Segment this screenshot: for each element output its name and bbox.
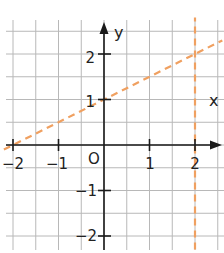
- x-tick-label: −2: [2, 155, 24, 173]
- x-tick-label: 1: [145, 155, 155, 173]
- dashed-line: [4, 40, 222, 149]
- x-tick-labels: −2 −1 1 2: [2, 155, 200, 173]
- y-tick-labels: 2 1 −1 −2: [75, 49, 97, 245]
- x-axis-label: x: [209, 91, 218, 110]
- y-axis-label: y: [114, 23, 123, 42]
- grid-lines: [6, 20, 224, 250]
- x-axis-arrow-icon: [210, 141, 222, 150]
- x-tick-label: 2: [190, 155, 200, 173]
- y-tick-label: 1: [85, 93, 95, 111]
- plotted-lines: [4, 18, 222, 250]
- y-tick-label: 2: [85, 49, 95, 67]
- origin-label: O: [88, 150, 100, 168]
- y-tick-label: −1: [75, 182, 97, 200]
- y-axis-arrow-icon: [100, 22, 109, 34]
- x-tick-label: −1: [46, 155, 68, 173]
- coordinate-plane: x y O −2 −1 1 2 2 1 −1 −2: [0, 0, 224, 253]
- y-tick-label: −2: [75, 227, 97, 245]
